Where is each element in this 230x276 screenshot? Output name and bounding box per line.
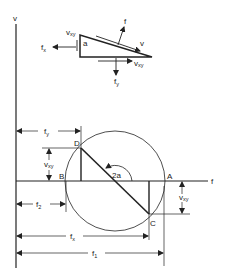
left-vxy-label: vxy [66, 28, 76, 37]
shear-v-label: v [140, 39, 144, 48]
point-c-label: C [150, 219, 156, 228]
horizontal-axis-label: f [211, 177, 214, 186]
fx-dimension-label: fx [70, 232, 75, 242]
fx-label: fx [41, 43, 46, 53]
element-angle-label: a [83, 39, 88, 48]
mohr-circle-diagram: v f a v f vxy fx vxy fy 2a D [0, 0, 230, 276]
fy-label: fy [114, 77, 119, 87]
shear-v-arrow [96, 36, 140, 51]
upper-vxy-label: vxy [44, 160, 54, 169]
f2-dimension-label: f2 [36, 200, 41, 210]
fy-dimension-label: fy [44, 127, 49, 137]
vertical-axis-label: v [13, 14, 17, 23]
normal-f-label: f [124, 17, 127, 26]
point-b-label: B [59, 172, 64, 181]
point-d-label: D [74, 139, 80, 148]
point-a-label: A [167, 172, 173, 181]
normal-f-arrow [118, 27, 124, 45]
dimensions: fy vxy vxy f2 fx f1 [17, 126, 190, 266]
lower-vxy-label: vxy [179, 193, 189, 202]
f1-dimension-label: f1 [92, 249, 97, 259]
stress-element: a v f vxy fx vxy fy [41, 17, 152, 87]
bottom-vxy-label: vxy [134, 59, 144, 68]
angle-2a-label: 2a [112, 171, 121, 180]
